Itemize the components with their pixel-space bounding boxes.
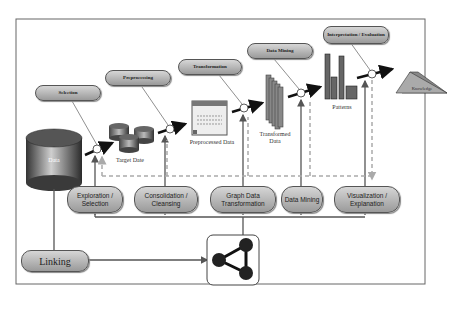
step-visualization-explanation: Visualization / Explanation — [334, 186, 400, 213]
stage-transformation: Transformation — [178, 59, 242, 75]
step-consolidation-cleansing: Consolidation / Cleansing — [134, 186, 198, 213]
stage-data-mining: Data Mining — [247, 43, 313, 59]
label-target-data: Target Date — [108, 157, 152, 164]
label-knowledge: Knowledge — [404, 85, 440, 92]
step-exploration-selection: Exploration / Selection — [67, 186, 123, 213]
stage-preprocessing: Preprocessing — [105, 70, 171, 86]
step-graph-data-transformation: Graph Data Transformation — [210, 186, 276, 213]
stage-selection: Selection — [35, 85, 101, 101]
label-patterns: Patterns — [322, 104, 362, 111]
graph-network-icon — [207, 235, 259, 285]
stage-interpretation-evaluation: Interpretation / Evaluation — [323, 26, 389, 44]
label-preprocessed-data: Preprocessed Data — [180, 139, 244, 146]
label-data: Data — [36, 157, 72, 164]
step-data-mining: Data Mining — [281, 186, 323, 213]
linking-step: Linking — [21, 250, 89, 272]
preprocessed-data-icon — [192, 101, 227, 135]
label-transformed-data: Transformed Data — [255, 131, 295, 145]
